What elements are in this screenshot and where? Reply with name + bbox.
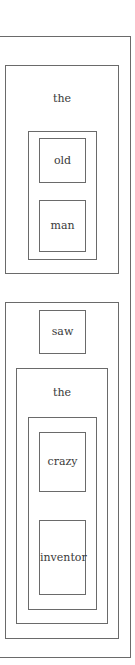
np-object-det-label: the: [17, 387, 107, 399]
word-inventor-box: inventor: [39, 520, 86, 595]
word-man-box: man: [39, 200, 86, 252]
word-crazy-box: crazy: [39, 432, 86, 492]
word-saw-box: saw: [39, 310, 86, 354]
word-inventor-label: inventor: [40, 552, 85, 564]
word-old-box: old: [39, 138, 86, 183]
word-saw-label: saw: [40, 326, 85, 338]
word-crazy-label: crazy: [40, 456, 85, 468]
word-old-label: old: [40, 155, 85, 167]
word-man-label: man: [40, 220, 85, 232]
np-subject-det-label: the: [6, 93, 118, 105]
